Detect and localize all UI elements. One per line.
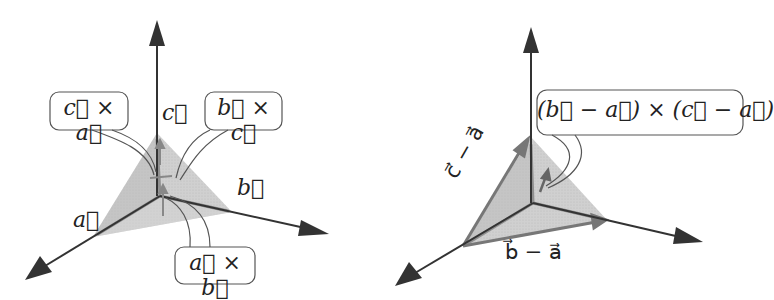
callout-label-normal: (b⃗ − a⃗) × (c⃗ − a⃗)	[537, 97, 743, 122]
axis-label-c: c⃗	[162, 100, 188, 125]
edge-label-b-minus-a: b⃗ − a⃗	[505, 240, 562, 264]
edge-label-c-minus-a: c⃗ − a⃗	[440, 122, 489, 182]
callout-label-a-cross-b: a⃗ × b⃗	[175, 250, 255, 300]
callout-label-c-cross-a: c⃗ × a⃗	[50, 95, 128, 145]
callout-label-b-cross-c: b⃗ × c⃗	[205, 95, 282, 145]
axis-label-b: b⃗	[237, 175, 264, 200]
axis-label-a: a⃗	[73, 207, 99, 232]
